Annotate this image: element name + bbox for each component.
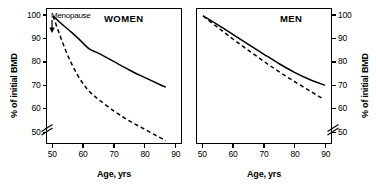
y-tick-mark <box>332 38 336 39</box>
y-tick-mark <box>43 61 47 62</box>
x-axis-title-women: Age, yrs <box>66 169 162 179</box>
x-tick-label: 90 <box>316 150 336 159</box>
y-tick-label: 70 <box>338 81 347 90</box>
x-tick-mark <box>52 144 53 148</box>
y-tick-mark <box>332 14 336 15</box>
menopause-annotation-label: Menopause <box>51 12 91 20</box>
y-tick-mark <box>332 108 336 109</box>
x-tick-label: 50 <box>192 150 212 159</box>
x-tick-mark <box>325 144 326 148</box>
y-tick-mark <box>43 38 47 39</box>
y-tick-label: 60 <box>338 104 347 113</box>
x-axis-title-men: Age, yrs <box>216 169 312 179</box>
y-tick-label: 80 <box>31 57 40 66</box>
panel-label-women: WOMEN <box>104 13 143 24</box>
y-tick-label: 100 <box>338 11 352 20</box>
x-tick-mark <box>263 144 264 148</box>
bmd-age-figure: WOMEN Menopause % of initial BMD Age, yr… <box>0 0 376 188</box>
panel-label-men: MEN <box>280 13 302 24</box>
x-tick-label: 80 <box>285 150 305 159</box>
x-tick-mark <box>202 144 203 148</box>
x-tick-label: 90 <box>166 150 186 159</box>
series-accelerated-bone-loss-men <box>203 16 322 98</box>
y-tick-label: 100 <box>27 11 41 20</box>
x-tick-mark <box>82 144 83 148</box>
y-tick-label: 60 <box>31 104 40 113</box>
y-tick-label: 90 <box>338 34 347 43</box>
x-tick-label: 50 <box>42 150 62 159</box>
x-tick-label: 70 <box>104 150 124 159</box>
chart-panel-women: WOMEN Menopause % of initial BMD Age, yr… <box>0 0 188 188</box>
y-tick-mark <box>332 61 336 62</box>
x-tick-mark <box>294 144 295 148</box>
plot-area-men <box>197 9 331 143</box>
y-tick-label: 80 <box>338 57 347 66</box>
y-axis-break-icon-women <box>39 122 55 138</box>
y-tick-mark <box>43 85 47 86</box>
y-axis-title-men: % of initial BMD <box>360 53 370 118</box>
x-tick-mark <box>175 144 176 148</box>
x-tick-label: 60 <box>223 150 243 159</box>
y-tick-mark <box>43 14 47 15</box>
series-accelerated-bone-loss-women <box>53 16 166 141</box>
y-tick-label: 70 <box>31 81 40 90</box>
x-tick-mark <box>232 144 233 148</box>
y-axis-break-icon-men <box>325 122 341 138</box>
plot-frame-men <box>196 8 332 144</box>
y-tick-label: 90 <box>31 34 40 43</box>
x-tick-label: 60 <box>73 150 93 159</box>
x-tick-mark <box>144 144 145 148</box>
x-tick-label: 70 <box>254 150 274 159</box>
menopause-arrow-icon <box>44 20 68 38</box>
chart-panel-men: MEN % of initial BMD Age, yrs 5060708090… <box>188 0 376 188</box>
y-tick-mark <box>43 108 47 109</box>
x-tick-label: 80 <box>135 150 155 159</box>
series-normal-bone-loss-women <box>53 16 166 87</box>
y-tick-mark <box>332 85 336 86</box>
x-tick-mark <box>113 144 114 148</box>
y-axis-title-women: % of initial BMD <box>9 53 19 118</box>
series-normal-bone-loss-men <box>203 16 325 85</box>
